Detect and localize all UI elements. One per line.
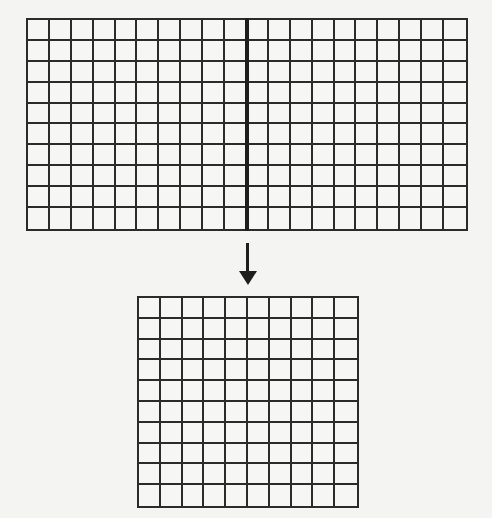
grid-cell (72, 166, 94, 187)
grid-cell (183, 444, 205, 465)
grid-cell (270, 381, 292, 402)
grid-cell (94, 124, 116, 145)
grid-cell (378, 83, 400, 104)
grid-cell (400, 145, 422, 166)
grid-cell (204, 298, 226, 319)
grid-cell (204, 402, 226, 423)
grid-cell (356, 20, 378, 41)
grid-cell (94, 145, 116, 166)
grid-cell (400, 104, 422, 125)
grid-cell (139, 402, 161, 423)
grid-cell (378, 208, 400, 229)
grid-cell (248, 298, 270, 319)
grid-cell (335, 319, 357, 340)
grid-cell (422, 187, 444, 208)
grid-cell (247, 41, 269, 62)
grid-cell (313, 298, 335, 319)
grid-cell (335, 423, 357, 444)
grid-cell (422, 166, 444, 187)
grid-cell (247, 83, 269, 104)
grid-cell (444, 20, 466, 41)
grid-cell (183, 381, 205, 402)
grid-cell (269, 62, 291, 83)
grid-cell (203, 83, 225, 104)
grid-cell (378, 20, 400, 41)
grid-cell (313, 83, 335, 104)
grid-cell (378, 124, 400, 145)
grid-cell (204, 319, 226, 340)
grid-cell (356, 104, 378, 125)
grid-cell (226, 485, 248, 506)
grid-cell (291, 166, 313, 187)
grid-cell (116, 124, 138, 145)
grid-cell (335, 381, 357, 402)
grid-cell (291, 83, 313, 104)
grid-cell (291, 62, 313, 83)
grid-cell (269, 208, 291, 229)
grid-cell (335, 444, 357, 465)
grid-cell (247, 124, 269, 145)
grid-cell (183, 340, 205, 361)
grid-cell (422, 20, 444, 41)
grid-cell (225, 41, 247, 62)
grid-cell (159, 208, 181, 229)
grid-cell (313, 20, 335, 41)
grid-cell (248, 444, 270, 465)
grid-cell (248, 485, 270, 506)
grid-cell (94, 41, 116, 62)
grid-cell (183, 319, 205, 340)
grid-cell (422, 62, 444, 83)
grid-cell (50, 208, 72, 229)
grid-cell (313, 340, 335, 361)
grid-cell (50, 166, 72, 187)
down-arrow-shaft (246, 243, 249, 273)
grid-cell (94, 20, 116, 41)
grid-cell (226, 360, 248, 381)
grid-cell (181, 62, 203, 83)
grid-cell (204, 381, 226, 402)
grid-cell (204, 485, 226, 506)
grid-cell (270, 319, 292, 340)
grid-cell (226, 340, 248, 361)
grid-cell (247, 20, 269, 41)
grid-cell (291, 104, 313, 125)
grid-cell (400, 41, 422, 62)
grid-cell (335, 187, 357, 208)
grid-cell (335, 208, 357, 229)
grid-cell (292, 340, 314, 361)
grid-cell (183, 298, 205, 319)
grid-cell (159, 41, 181, 62)
grid-cell (94, 104, 116, 125)
grid-cell (292, 485, 314, 506)
grid-cell (116, 187, 138, 208)
grid-cell (335, 41, 357, 62)
grid-cell (356, 145, 378, 166)
grid-cell (50, 62, 72, 83)
grid-cell (139, 485, 161, 506)
grid-cell (335, 124, 357, 145)
grid-cell (72, 208, 94, 229)
grid-cell (72, 145, 94, 166)
grid-cell (226, 444, 248, 465)
grid-cell (181, 187, 203, 208)
grid-cell (116, 62, 138, 83)
grid-cell (313, 124, 335, 145)
grid-cell (203, 41, 225, 62)
grid-cell (422, 124, 444, 145)
grid-cell (50, 187, 72, 208)
grid-cell (248, 423, 270, 444)
grid-cell (161, 464, 183, 485)
grid-cell (116, 208, 138, 229)
grid-cell (269, 83, 291, 104)
grid-cell (444, 187, 466, 208)
grid-cell (137, 145, 159, 166)
grid-cell (291, 124, 313, 145)
down-arrow-icon (239, 271, 257, 285)
grid-cell (72, 83, 94, 104)
grid-cell (116, 83, 138, 104)
grid-cell (225, 124, 247, 145)
grid-cell (313, 104, 335, 125)
grid-cell (183, 464, 205, 485)
grid-cell (159, 83, 181, 104)
grid-cell (378, 166, 400, 187)
